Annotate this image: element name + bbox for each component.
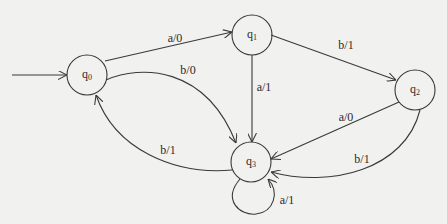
state-label-q2: q2 [410, 83, 420, 97]
edge-q0-q3 [106, 72, 236, 143]
edge-label-q1-q2: b/1 [338, 39, 353, 51]
edge-q2-q3-a [271, 102, 399, 159]
edge-q3-q0 [96, 95, 232, 171]
edge-label-q3-self: a/1 [280, 194, 295, 206]
diagram-graphics [0, 0, 447, 224]
edge-q3-self [232, 179, 274, 214]
state-diagram: q0 q1 q2 q3 a/0 b/0 a/1 b/1 a/0 b/1 b/1 … [0, 0, 447, 224]
edge-q1-q2 [271, 35, 396, 80]
edge-label-q1-q3: a/1 [257, 81, 272, 93]
edge-label-q0-q1: a/0 [168, 32, 183, 44]
edge-label-q2-q3-b: b/1 [354, 153, 369, 165]
edge-label-q0-q3: b/0 [180, 64, 195, 76]
state-label-q0: q0 [82, 68, 92, 82]
edge-label-q2-q3-a: a/0 [339, 111, 354, 123]
state-label-q3: q3 [246, 155, 256, 169]
state-label-q1: q1 [247, 28, 257, 42]
edge-label-q3-q0: b/1 [160, 144, 175, 156]
